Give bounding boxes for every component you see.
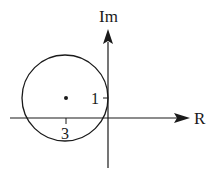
real-tick-label: 3: [61, 125, 69, 142]
center-point: [64, 96, 68, 100]
real-axis-label: R: [194, 109, 206, 128]
imaginary-axis-arrow-icon: [103, 29, 113, 44]
imaginary-axis-label: Im: [99, 7, 118, 26]
imag-tick-label: 1: [91, 90, 99, 107]
complex-plane-diagram: Im R 1 3: [0, 0, 207, 171]
